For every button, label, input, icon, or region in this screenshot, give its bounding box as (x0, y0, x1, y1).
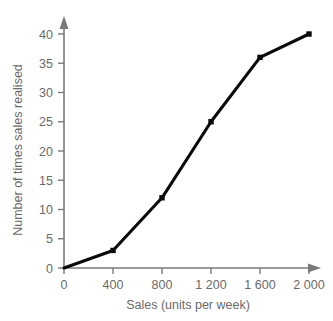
x-tick-label: 0 (61, 278, 68, 292)
y-axis-title: Number of times sales realised (11, 64, 25, 236)
y-tick-label: 5 (46, 232, 53, 246)
x-axis-tick-labels: 0 400 800 1 200 1 600 2 000 (61, 278, 325, 292)
x-tick-label: 1 600 (244, 278, 275, 292)
data-point-marker (110, 248, 115, 253)
x-tick-label: 1 200 (195, 278, 226, 292)
y-tick-label: 40 (39, 28, 53, 42)
line-chart: 0 5 10 15 20 25 30 35 40 0 400 800 1 200… (0, 0, 333, 321)
data-point-marker (159, 195, 164, 200)
data-point-marker (306, 31, 311, 36)
y-axis-arrow-icon (60, 16, 69, 29)
x-axis-ticks (64, 268, 309, 274)
x-tick-label: 800 (152, 278, 173, 292)
chart-canvas: 0 5 10 15 20 25 30 35 40 0 400 800 1 200… (0, 0, 333, 321)
x-tick-label: 2 000 (293, 278, 324, 292)
y-tick-label: 10 (39, 203, 53, 217)
x-tick-label: 400 (103, 278, 124, 292)
x-axis-title: Sales (units per week) (126, 298, 250, 312)
data-series-line (64, 34, 309, 268)
y-tick-label: 35 (39, 57, 53, 71)
y-tick-label: 0 (46, 262, 53, 276)
y-tick-label: 15 (39, 174, 53, 188)
y-axis-ticks (58, 34, 64, 268)
y-axis-tick-labels: 0 5 10 15 20 25 30 35 40 (39, 28, 53, 276)
x-axis-arrow-icon (308, 264, 321, 273)
y-tick-label: 25 (39, 115, 53, 129)
data-point-marker (257, 55, 262, 60)
data-point-marker (208, 119, 213, 124)
y-tick-label: 30 (39, 86, 53, 100)
y-tick-label: 20 (39, 145, 53, 159)
